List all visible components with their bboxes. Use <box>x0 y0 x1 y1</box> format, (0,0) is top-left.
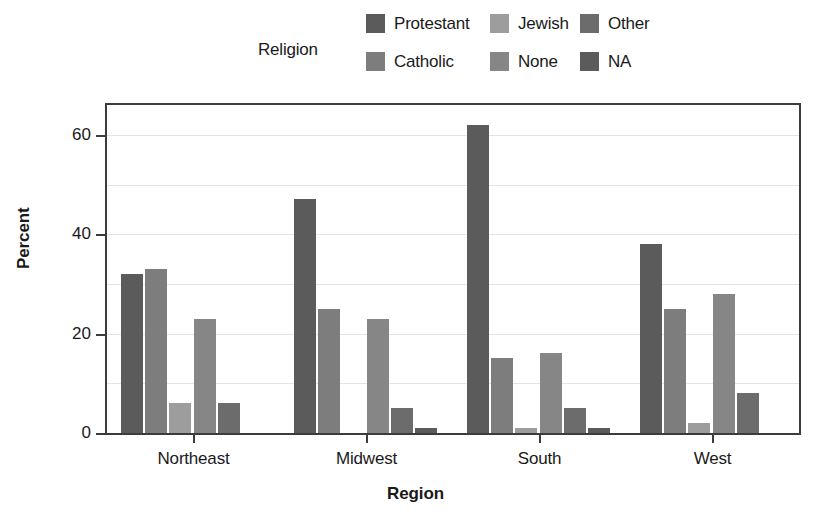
x-tick-mark <box>539 433 541 443</box>
y-tick-mark <box>96 135 107 137</box>
bar <box>415 428 437 433</box>
legend-title: Religion <box>258 40 318 60</box>
bar <box>540 353 562 433</box>
bar <box>467 125 489 433</box>
bar <box>491 358 513 433</box>
y-axis-title: Percent <box>14 207 34 269</box>
x-tick-mark <box>712 433 714 443</box>
bar <box>145 269 167 433</box>
legend-swatch-none <box>490 52 509 71</box>
bar <box>737 393 759 433</box>
plot-area: 0204060 NortheastMidwestSouthWest <box>105 103 801 435</box>
legend-swatch-jewish <box>490 14 509 33</box>
gridline <box>107 135 799 136</box>
legend-label-catholic: Catholic <box>394 52 454 71</box>
bar <box>664 309 686 433</box>
bar <box>194 319 216 433</box>
bar <box>515 428 537 433</box>
legend-label-protestant: Protestant <box>394 14 470 33</box>
bar <box>218 403 240 433</box>
y-tick-label: 40 <box>72 224 91 244</box>
gridline <box>107 234 799 235</box>
legend-label-none: None <box>518 52 558 71</box>
legend-swatch-other <box>580 14 599 33</box>
plot-inner: 0204060 NortheastMidwestSouthWest <box>107 105 799 433</box>
legend-swatch-na <box>580 52 599 71</box>
legend-entry-none: None <box>490 52 558 71</box>
y-tick-mark <box>96 433 107 435</box>
legend-swatch-catholic <box>366 52 385 71</box>
bar <box>169 403 191 433</box>
x-axis-title: Region <box>0 484 831 504</box>
legend-entry-other: Other <box>580 14 650 33</box>
bar <box>121 274 143 433</box>
bar <box>294 199 316 433</box>
legend-entry-na: NA <box>580 52 631 71</box>
gridline <box>107 185 799 186</box>
legend-label-na: NA <box>608 52 631 71</box>
legend-entry-jewish: Jewish <box>490 14 569 33</box>
y-tick-label: 60 <box>72 125 91 145</box>
gridline <box>107 284 799 285</box>
legend-label-other: Other <box>608 14 650 33</box>
legend-swatch-protestant <box>366 14 385 33</box>
bar <box>564 408 586 433</box>
y-tick-mark <box>96 334 107 336</box>
x-tick-label: South <box>518 449 561 469</box>
legend-label-jewish: Jewish <box>518 14 569 33</box>
chart-legend: Religion Protestant Catholic Jewish None… <box>258 14 678 90</box>
x-tick-mark <box>193 433 195 443</box>
bar <box>367 319 389 433</box>
bar <box>588 428 610 433</box>
bar <box>713 294 735 433</box>
y-tick-mark <box>96 234 107 236</box>
legend-entry-protestant: Protestant <box>366 14 470 33</box>
x-tick-label: West <box>694 449 732 469</box>
legend-entry-catholic: Catholic <box>366 52 454 71</box>
bar <box>318 309 340 433</box>
x-tick-label: Midwest <box>336 449 397 469</box>
bar <box>688 423 710 433</box>
x-tick-mark <box>366 433 368 443</box>
x-tick-label: Northeast <box>158 449 230 469</box>
bar <box>640 244 662 433</box>
y-tick-label: 0 <box>82 423 91 443</box>
bar <box>391 408 413 433</box>
bar-chart-figure: Religion Protestant Catholic Jewish None… <box>0 0 831 516</box>
y-tick-label: 20 <box>72 324 91 344</box>
